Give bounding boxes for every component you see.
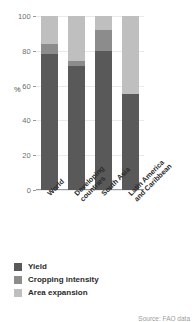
bar-segment-area-expansion — [41, 16, 58, 44]
bar-segment-yield — [41, 54, 58, 190]
legend-item[interactable]: Yield — [14, 262, 99, 271]
bar-segment-cropping-intensity — [95, 30, 112, 51]
legend-item[interactable]: Cropping intensity — [14, 275, 99, 284]
bar-developing-countries — [68, 16, 85, 190]
y-axis-title: % — [14, 85, 21, 94]
bar-segment-cropping-intensity — [41, 44, 58, 54]
legend-label: Yield — [28, 262, 47, 271]
y-axis-tick-label: 100 — [18, 12, 31, 21]
x-axis-labels: WorldDevelopingcountriesSouth AsiaLatin … — [36, 192, 148, 254]
plot-area: 020406080100 — [36, 16, 144, 190]
bar-latin-america-and-caribbean — [122, 16, 139, 190]
bar-segment-yield — [68, 66, 85, 190]
legend-swatch-icon — [14, 276, 22, 284]
bars-group — [36, 16, 144, 190]
y-axis-tick-label: 0 — [27, 186, 31, 195]
legend-item[interactable]: Area expansion — [14, 288, 99, 297]
legend-label: Cropping intensity — [28, 275, 99, 284]
y-axis-tick-label: 40 — [22, 116, 31, 125]
legend-swatch-icon — [14, 289, 22, 297]
bar-segment-area-expansion — [122, 16, 139, 94]
y-axis-tick-label: 20 — [22, 151, 31, 160]
legend-label: Area expansion — [28, 288, 88, 297]
bar-segment-area-expansion — [68, 16, 85, 61]
bar-world — [41, 16, 58, 190]
chart-legend: YieldCropping intensityArea expansion — [14, 262, 99, 297]
bar-south-asia — [95, 16, 112, 190]
legend-swatch-icon — [14, 263, 22, 271]
y-axis-tick — [33, 190, 36, 191]
y-axis-tick-label: 60 — [22, 81, 31, 90]
y-axis-tick-label: 80 — [22, 46, 31, 55]
source-note: Source: FAO data — [138, 315, 190, 322]
bar-segment-area-expansion — [95, 16, 112, 30]
